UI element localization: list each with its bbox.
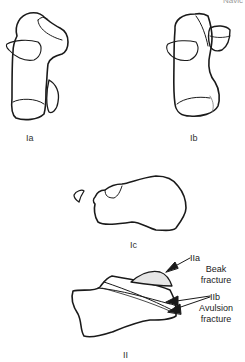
bone-ic (74, 176, 186, 231)
annotation-iia-line1: Beak (186, 264, 245, 275)
annotation-iib-code: IIb (186, 292, 245, 303)
annotation-iib-line2: fracture (186, 314, 245, 325)
bone-ib (167, 14, 231, 117)
label-ib: Ib (190, 133, 198, 143)
bone-ii (72, 271, 176, 336)
annotation-iia-line2: fracture (186, 275, 245, 286)
annotation-iia-code: IIa (186, 253, 245, 264)
label-ii: II (123, 350, 128, 360)
annotation-iib-line1: Avulsion (186, 303, 245, 314)
label-ia: Ia (26, 133, 34, 143)
annotation-iib: IIb Avulsion fracture (186, 292, 245, 325)
label-ic: Ic (130, 240, 137, 250)
annotation-iia: IIa Beak fracture (186, 253, 245, 286)
bone-ia (6, 13, 68, 120)
